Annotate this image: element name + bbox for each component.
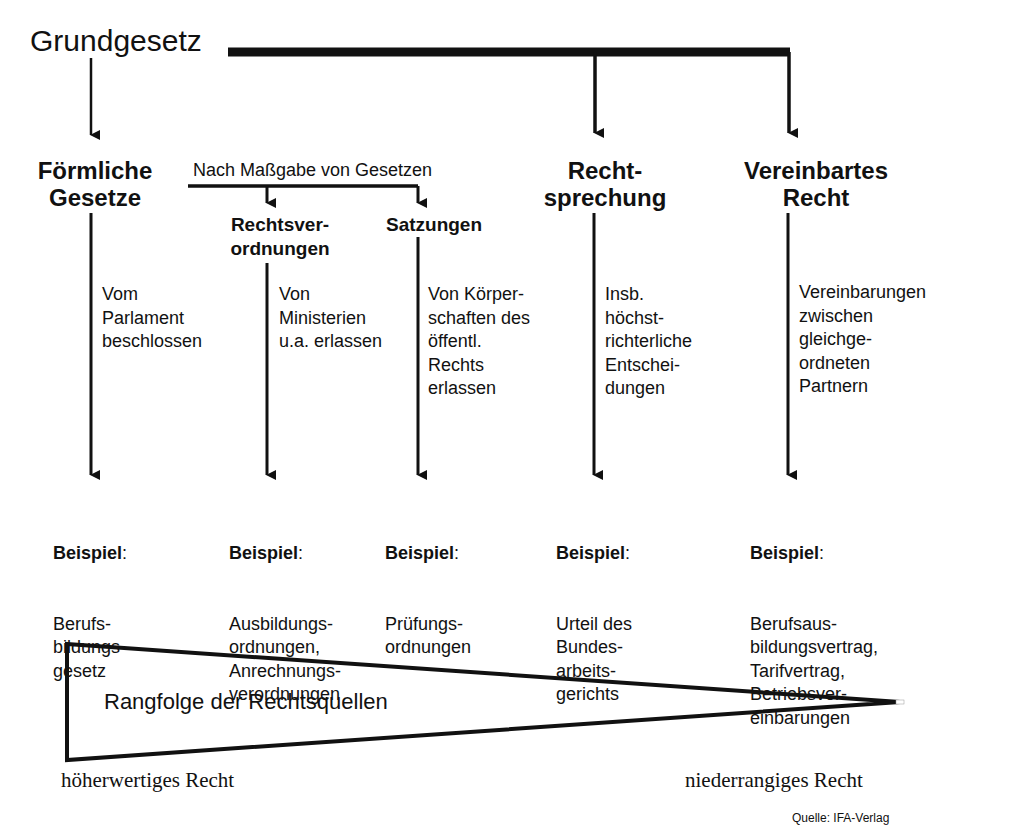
description-ordinances: Von Ministerien u.a. erlassen: [279, 283, 382, 354]
category-title-line2: ordnungen: [212, 237, 348, 261]
category-formal-laws: Förmliche Gesetze: [22, 157, 168, 211]
example-agreed-law: Beispiel: Berufsaus- bildungsvertrag, Ta…: [750, 495, 878, 754]
example-label: Beispiel: [385, 543, 454, 563]
description-statutes: Von Körper- schaften des öffentl. Rechts…: [428, 283, 530, 401]
category-statutes: Satzungen: [372, 213, 496, 237]
root-node-grundgesetz: Grundgesetz: [30, 24, 202, 58]
category-ordinances: Rechtsver- ordnungen: [212, 213, 348, 261]
category-agreed-law: Vereinbartes Recht: [718, 157, 914, 211]
example-case-law: Beispiel: Urteil des Bundes- arbeits- ge…: [556, 495, 632, 730]
example-statutes: Beispiel: Prüfungs- ordnungen: [385, 495, 471, 683]
example-text: Berufs- bildungs- gesetz: [53, 613, 127, 684]
example-label: Beispiel: [229, 543, 298, 563]
mediator-label: Nach Maßgabe von Gesetzen: [193, 160, 432, 181]
example-text: Berufsaus- bildungsvertrag, Tarifvertrag…: [750, 613, 878, 731]
category-title-line1: Recht-: [525, 157, 685, 184]
category-title-line2: Recht: [718, 184, 914, 211]
category-case-law: Recht- sprechung: [525, 157, 685, 211]
example-label: Beispiel: [53, 543, 122, 563]
category-title-line1: Förmliche: [22, 157, 168, 184]
category-title-line2: sprechung: [525, 184, 685, 211]
category-title-line1: Vereinbartes: [718, 157, 914, 184]
category-title-line1: Rechtsver-: [212, 213, 348, 237]
example-text: Prüfungs- ordnungen: [385, 613, 471, 660]
description-case-law: Insb. höchst- richterliche Entschei- dun…: [605, 283, 692, 401]
ranking-high-end-label: höherwertiges Recht: [61, 768, 234, 793]
source-credit: Quelle: IFA-Verlag: [792, 811, 889, 825]
ranking-label: Rangfolge der Rechtsquellen: [104, 689, 388, 715]
example-label: Beispiel: [750, 543, 819, 563]
description-agreed-law: Vereinbarungen zwischen gleichge- ordnet…: [799, 281, 926, 399]
example-label: Beispiel: [556, 543, 625, 563]
category-title-line1: Satzungen: [372, 213, 496, 237]
ranking-low-end-label: niederrangiges Recht: [685, 768, 863, 793]
example-text: Urteil des Bundes- arbeits- gerichts: [556, 613, 632, 707]
description-formal-laws: Vom Parlament beschlossen: [102, 283, 202, 354]
category-title-line2: Gesetze: [22, 184, 168, 211]
example-formal-laws: Beispiel: Berufs- bildungs- gesetz: [53, 495, 127, 707]
